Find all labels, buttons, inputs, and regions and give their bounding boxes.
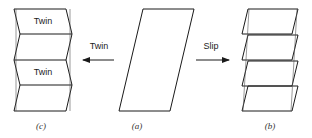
panel-a-original-crystal: (a) <box>119 9 194 131</box>
twin-arrow-label: Twin <box>90 41 109 51</box>
caption-b: (b) <box>265 121 276 131</box>
twin-label-upper: Twin <box>34 16 53 26</box>
slip-arrow-label: Slip <box>203 41 218 51</box>
slip-arrow: Slip <box>196 41 229 60</box>
panel-c-twinned-crystal: Twin Twin (c) <box>14 9 72 131</box>
twin-slip-diagram: Twin Twin (c) Twin (a) Slip (b) <box>0 0 312 138</box>
twin-arrow: Twin <box>83 41 114 60</box>
panel-b-slipped-crystal: (b) <box>242 9 298 131</box>
caption-a: (a) <box>132 121 143 131</box>
twin-label-lower: Twin <box>34 67 53 77</box>
caption-c: (c) <box>36 121 46 131</box>
